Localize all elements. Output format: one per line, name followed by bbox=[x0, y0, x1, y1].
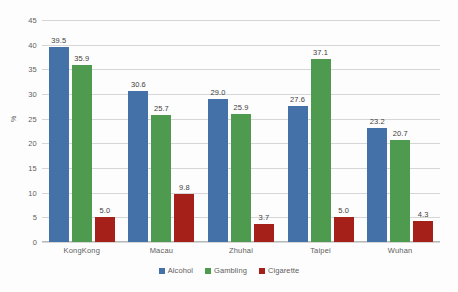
bar-slot: 39.5 bbox=[49, 20, 69, 242]
bar-gambling[interactable] bbox=[231, 114, 251, 242]
bar-group: 23.220.74.3 bbox=[360, 20, 440, 242]
bar-value-label: 20.7 bbox=[393, 129, 408, 138]
bar-value-label: 37.1 bbox=[313, 48, 328, 57]
y-axis-tick-label: 40 bbox=[7, 40, 37, 49]
bar-cigarette[interactable] bbox=[254, 224, 274, 242]
bar-cigarette[interactable] bbox=[334, 217, 354, 242]
y-axis-tick-label: 15 bbox=[7, 164, 37, 173]
bar-value-label: 3.7 bbox=[259, 213, 270, 222]
x-axis-categories: KongKongMacauZhuhaiTaipeiWuhan bbox=[42, 246, 440, 255]
bar-cigarette[interactable] bbox=[174, 194, 194, 242]
x-axis-category-label: Wuhan bbox=[360, 246, 440, 255]
bar-group-bars: 29.025.93.7 bbox=[201, 20, 281, 242]
bar-value-label: 29.0 bbox=[210, 88, 225, 97]
bar-slot: 20.7 bbox=[390, 20, 410, 242]
y-axis-tick-label: 35 bbox=[7, 65, 37, 74]
legend-label: Gambling bbox=[214, 266, 247, 275]
y-axis-tick-label: 45 bbox=[7, 16, 37, 25]
bar-alcohol[interactable] bbox=[128, 91, 148, 242]
bar-slot: 9.8 bbox=[174, 20, 194, 242]
legend-item-alcohol[interactable]: Alcohol bbox=[159, 266, 193, 275]
bar-gambling[interactable] bbox=[390, 140, 410, 242]
bar-cigarette[interactable] bbox=[95, 217, 115, 242]
bar-group-bars: 30.625.79.8 bbox=[122, 20, 202, 242]
bar-group: 27.637.15.0 bbox=[281, 20, 361, 242]
bar-slot: 25.9 bbox=[231, 20, 251, 242]
bar-slot: 23.2 bbox=[367, 20, 387, 242]
bar-value-label: 25.7 bbox=[154, 104, 169, 113]
bar-chart: % 454035302520151050 39.535.95.030.625.7… bbox=[0, 0, 458, 292]
bar-slot: 35.9 bbox=[72, 20, 92, 242]
bar-slot: 4.3 bbox=[413, 20, 433, 242]
bar-alcohol[interactable] bbox=[288, 106, 308, 242]
bar-gambling[interactable] bbox=[72, 65, 92, 242]
y-axis-tick-label: 0 bbox=[7, 238, 37, 247]
y-axis-tick-label: 20 bbox=[7, 139, 37, 148]
y-axis-tick-label: 30 bbox=[7, 90, 37, 99]
bar-value-label: 30.6 bbox=[131, 80, 146, 89]
bar-value-label: 27.6 bbox=[290, 95, 305, 104]
bar-slot: 5.0 bbox=[95, 20, 115, 242]
bar-value-label: 9.8 bbox=[179, 183, 190, 192]
bar-value-label: 4.3 bbox=[418, 210, 429, 219]
legend-swatch-icon bbox=[159, 268, 165, 274]
bar-alcohol[interactable] bbox=[49, 47, 69, 242]
legend-item-gambling[interactable]: Gambling bbox=[205, 266, 247, 275]
bar-value-label: 35.9 bbox=[74, 54, 89, 63]
y-axis-tick-label: 10 bbox=[7, 188, 37, 197]
bar-slot: 37.1 bbox=[311, 20, 331, 242]
x-axis-category-label: Taipei bbox=[281, 246, 361, 255]
chart-legend: AlcoholGamblingCigarette bbox=[0, 266, 458, 275]
bar-gambling[interactable] bbox=[151, 115, 171, 242]
bar-gambling[interactable] bbox=[311, 59, 331, 242]
legend-swatch-icon bbox=[259, 268, 265, 274]
bar-value-label: 39.5 bbox=[51, 36, 66, 45]
bar-slot: 5.0 bbox=[334, 20, 354, 242]
bar-slot: 3.7 bbox=[254, 20, 274, 242]
legend-item-cigarette[interactable]: Cigarette bbox=[259, 266, 299, 275]
x-axis-category-label: Macau bbox=[122, 246, 202, 255]
bar-value-label: 23.2 bbox=[370, 117, 385, 126]
bar-alcohol[interactable] bbox=[208, 99, 228, 242]
x-axis-category-label: Zhuhai bbox=[201, 246, 281, 255]
bar-group-bars: 27.637.15.0 bbox=[281, 20, 361, 242]
gridline bbox=[42, 242, 440, 243]
bar-alcohol[interactable] bbox=[367, 128, 387, 242]
bar-slot: 27.6 bbox=[288, 20, 308, 242]
bar-group: 39.535.95.0 bbox=[42, 20, 122, 242]
bar-value-label: 5.0 bbox=[338, 206, 349, 215]
bar-value-label: 5.0 bbox=[99, 206, 110, 215]
bar-slot: 30.6 bbox=[128, 20, 148, 242]
legend-swatch-icon bbox=[205, 268, 211, 274]
bar-group: 29.025.93.7 bbox=[201, 20, 281, 242]
bar-group-bars: 23.220.74.3 bbox=[360, 20, 440, 242]
bar-cigarette[interactable] bbox=[413, 221, 433, 242]
bar-group-bars: 39.535.95.0 bbox=[42, 20, 122, 242]
bar-slot: 29.0 bbox=[208, 20, 228, 242]
legend-label: Alcohol bbox=[168, 266, 193, 275]
bar-slot: 25.7 bbox=[151, 20, 171, 242]
bar-groups: 39.535.95.030.625.79.829.025.93.727.637.… bbox=[42, 20, 440, 242]
bar-group: 30.625.79.8 bbox=[122, 20, 202, 242]
y-axis-tick-label: 25 bbox=[7, 114, 37, 123]
legend-label: Cigarette bbox=[268, 266, 299, 275]
x-axis-category-label: KongKong bbox=[42, 246, 122, 255]
y-axis-tick-label: 5 bbox=[7, 213, 37, 222]
bar-value-label: 25.9 bbox=[233, 103, 248, 112]
